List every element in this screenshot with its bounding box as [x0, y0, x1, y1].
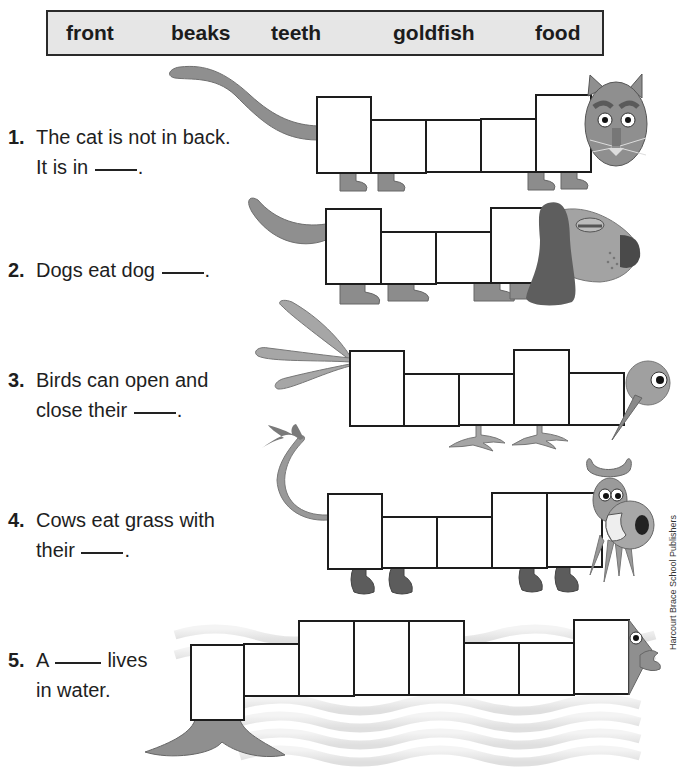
- fish-head-icon: [0, 0, 692, 769]
- publisher-credit: Harcourt Brace School Publishers: [668, 515, 678, 650]
